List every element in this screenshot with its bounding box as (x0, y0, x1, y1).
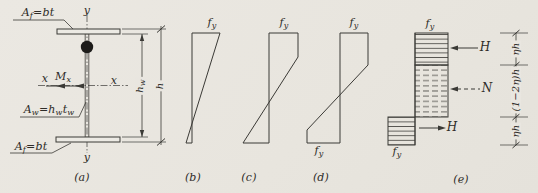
figure-linework (0, 0, 538, 193)
fy-label-bottom-e: fy (392, 146, 401, 159)
flange-area-label-top: Af=bt (22, 7, 55, 20)
stress-diagram-d-outline (307, 33, 368, 143)
bottom-flange (56, 137, 120, 142)
caption-b: (b) (185, 172, 201, 183)
fy-label-bottom-d: fy (314, 145, 323, 158)
stress-diagram-b-outline (186, 33, 220, 143)
force-h-top-label: H (480, 41, 491, 53)
force-arrow-h-top (450, 46, 478, 51)
top-flange (57, 29, 120, 34)
y-axis-label-bottom: y (84, 152, 90, 163)
e-middle-block (415, 65, 448, 117)
caption-c: (c) (241, 172, 256, 183)
caption-a: (a) (74, 172, 90, 183)
dim-label-eta-h-top: ηh (511, 41, 521, 58)
x-axis-label-right: x (111, 75, 117, 86)
total-height-dim-label: h (155, 81, 165, 92)
moment-label: Mx (55, 71, 71, 84)
stress-diagram-e (388, 30, 528, 148)
force-arrow-n (450, 87, 480, 92)
fy-label-top-e: fy (425, 18, 434, 31)
web-area-label: Aw=hwtw (24, 104, 75, 117)
web-height-dim-label: hw (135, 77, 147, 95)
dim-label-mid: (1−2η)h (511, 67, 521, 114)
dim-label-eta-h-bottom: ηh (511, 123, 521, 140)
moment-arrow (46, 83, 84, 88)
caption-e: (e) (453, 174, 469, 185)
e-bottom-block (388, 117, 415, 145)
force-n-label: N (482, 82, 493, 94)
fy-label-top-c: fy (279, 17, 288, 30)
force-h-bottom-label: H (447, 121, 458, 133)
figure-beam-column-stress-diagrams: Af=bt y x Mx x Aw=hwtw Af=bt y hw h (a) … (0, 0, 538, 193)
y-axis-label-top: y (84, 5, 90, 16)
fy-label-top-b: fy (207, 17, 216, 30)
force-arrow-h-bottom (419, 126, 446, 131)
fy-label-top-d: fy (349, 17, 358, 30)
x-axis-label-left: x (42, 73, 48, 84)
centroid-dot (81, 41, 93, 53)
caption-d: (d) (313, 172, 329, 183)
stress-diagram-c-outline (243, 33, 298, 143)
flange-area-label-bottom: Af=bt (15, 141, 48, 154)
e-top-block (415, 33, 448, 65)
